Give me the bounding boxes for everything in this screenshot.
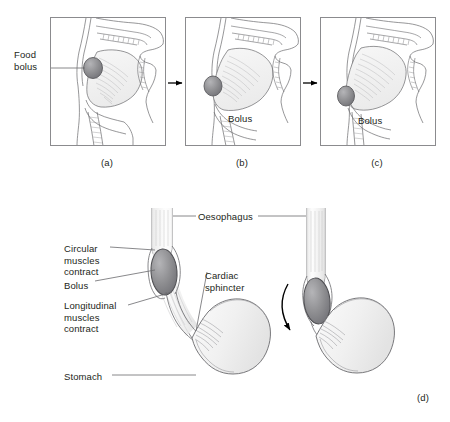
- label-food-bolus-line1: Food: [14, 49, 36, 60]
- label-circular-line3: contract: [64, 266, 99, 277]
- panel-d-right: [282, 208, 394, 373]
- peristalsis-direction-arrow: [282, 284, 290, 330]
- label-cardiac-line1: Cardiac: [205, 270, 238, 281]
- label-bolus-b: Bolus: [228, 113, 252, 125]
- caption-c: (c): [357, 157, 397, 169]
- bolus-shape-d-left: [149, 248, 178, 296]
- panel-d: [95, 208, 394, 375]
- label-bolus-d: Bolus: [64, 280, 88, 292]
- label-cardiac-sphincter: Cardiacsphincter: [205, 270, 244, 293]
- caption-d: (d): [403, 392, 443, 404]
- caption-b: (b): [222, 157, 262, 169]
- bolus-shape-b: [204, 76, 222, 96]
- label-food-bolus: Foodbolus: [14, 49, 37, 72]
- label-oesophagus: Oesophagus: [198, 211, 253, 223]
- label-longitudinal-line3: contract: [64, 323, 99, 334]
- swallowing-peristalsis-figure: Foodbolus Bolus Bolus (a) (b) (c) Circul…: [0, 0, 450, 422]
- label-bolus-c: Bolus: [358, 115, 382, 127]
- panel-c: [321, 18, 436, 147]
- food-bolus-shape-a: [84, 58, 103, 79]
- panel-b: [186, 18, 301, 147]
- label-longitudinal-line2: muscles: [64, 312, 100, 323]
- stomach-shape-left: [192, 299, 270, 374]
- label-food-bolus-line2: bolus: [14, 61, 37, 72]
- label-cardiac-line2: sphincter: [205, 282, 244, 293]
- panel-a: [38, 18, 166, 147]
- label-longitudinal-muscles-contract: Longitudinalmusclescontract: [64, 300, 116, 335]
- label-longitudinal-line1: Longitudinal: [64, 300, 116, 311]
- caption-a: (a): [87, 157, 127, 169]
- label-stomach: Stomach: [64, 371, 102, 383]
- label-circular-muscles-contract: Circularmusclescontract: [64, 243, 100, 278]
- label-circular-line2: muscles: [64, 255, 100, 266]
- bolus-shape-c: [338, 86, 355, 106]
- label-circular-line1: Circular: [64, 243, 98, 254]
